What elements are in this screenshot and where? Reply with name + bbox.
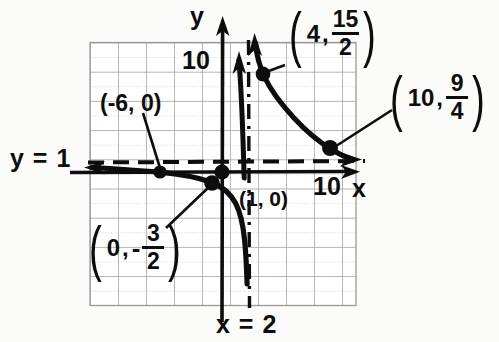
close-paren: ) [168, 224, 181, 272]
graph-figure: y x 10 10 y = 1 x = 2 (-6, 0) (1, 0) ( 4… [0, 0, 499, 342]
x-value: 10 [408, 86, 435, 110]
negative-sign: - [132, 235, 141, 261]
point-label-0-neg-three-halves: ( 0 , - 3 2 ) [85, 222, 185, 274]
vertical-asymptote-label: x = 2 [216, 312, 277, 337]
horizontal-asymptote-label: y = 1 [10, 146, 71, 171]
close-paren: ) [363, 10, 376, 58]
x-axis-label: x [352, 176, 366, 201]
point-10-nine-fourths [322, 140, 338, 156]
open-paren: ( [390, 74, 403, 122]
comma: , [436, 86, 443, 110]
numerator: 15 [332, 8, 360, 31]
x-value: 4 [307, 22, 320, 46]
numerator: 9 [450, 72, 465, 95]
open-paren: ( [89, 224, 102, 272]
fraction-three-halves: 3 2 [142, 222, 164, 274]
y-axis-tick-label-10: 10 [182, 48, 210, 73]
x-value: 0 [107, 236, 120, 260]
point-label-neg6-0: (-6, 0) [100, 92, 161, 115]
numerator: 3 [146, 222, 161, 245]
point-label-4-fifteen-halves: ( 4 , 15 2 ) [285, 8, 380, 60]
graph-canvas [0, 0, 499, 342]
open-paren: ( [289, 10, 302, 58]
x-axis-tick-label-10: 10 [313, 174, 341, 199]
y-axis-label: y [190, 4, 204, 29]
fraction-fifteen-halves: 15 2 [332, 8, 360, 60]
fraction-nine-fourths: 9 4 [446, 72, 468, 124]
point-label-1-0: (1, 0) [239, 188, 288, 209]
denominator: 2 [338, 36, 353, 59]
point-label-10-nine-fourths: ( 10 , 9 4 ) [386, 72, 489, 124]
denominator: 2 [146, 250, 161, 273]
close-paren: ) [472, 74, 485, 122]
comma: , [322, 22, 329, 46]
comma: , [122, 236, 129, 260]
denominator: 4 [450, 100, 465, 123]
point-4-fifteen-halves [256, 67, 271, 82]
